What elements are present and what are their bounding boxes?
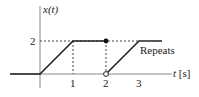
x-tick-label-3: 3 [136,78,142,89]
x-tick-label-1: 1 [70,78,76,89]
signal-segment-1 [10,41,106,74]
repeats-annotation: Repeats [140,45,175,56]
signal-plot: x(t) 2 1 2 3 Repeats t [s] [0,0,199,97]
filled-endpoint-marker [104,39,109,44]
y-axis-label: x(t) [43,4,58,15]
x-axis-label-unit: [s] [176,67,190,79]
x-axis-label: t [s] [173,68,190,79]
y-tick-label-2: 2 [30,36,36,47]
x-tick-label-2: 2 [103,78,109,89]
open-endpoint-marker [104,72,109,77]
